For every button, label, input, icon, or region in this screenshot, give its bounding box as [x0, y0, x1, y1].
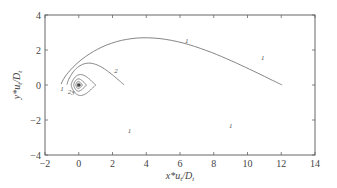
y-tick-label: 0: [36, 80, 41, 91]
x-tick-label: 8: [211, 158, 216, 169]
contour-line-3: [71, 75, 95, 96]
contour-label: 1: [261, 54, 265, 62]
x-tick-label: 12: [276, 158, 286, 169]
x-tick-label: 4: [144, 158, 149, 169]
x-tick-label: 0: [76, 158, 81, 169]
contour-line-1: [61, 38, 282, 85]
x-tick-label: 14: [310, 158, 320, 169]
contour-label: 3: [70, 89, 75, 97]
contour-lines: 11111223: [60, 37, 282, 135]
y-axis-label: y*ut/Dt: [11, 70, 24, 100]
x-tick-label: 2: [110, 158, 115, 169]
contour-label: 1: [128, 127, 132, 135]
x-axis-label: x*ut/Dt: [165, 170, 195, 183]
y-tick-label: −4: [30, 150, 41, 161]
plot-frame: [45, 15, 315, 155]
x-tick-label: 6: [178, 158, 183, 169]
x-tick-label: −2: [40, 158, 51, 169]
y-tick-label: −2: [30, 115, 41, 126]
contour-label: 1: [229, 122, 233, 130]
y-tick-label: 4: [36, 10, 41, 21]
contour-label: 2: [114, 67, 118, 75]
contour-label: 1: [185, 37, 189, 45]
contour-label: 1: [60, 85, 64, 93]
y-tick-label: 2: [36, 45, 41, 56]
source-point: [77, 83, 80, 86]
plot-border: [45, 15, 315, 155]
x-tick-label: 10: [243, 158, 253, 169]
contour-chart: 11111223 −202468101214−4−2024 x*ut/Dt y*…: [0, 0, 337, 188]
